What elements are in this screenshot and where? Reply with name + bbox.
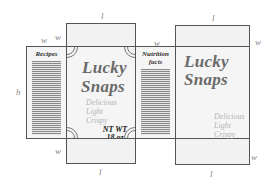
width-label-front-bottom-flap: w [55,147,61,156]
back-tagline-3: Crispy [214,130,235,140]
width-label-recipes-top: w [41,36,47,45]
front-top-flap [66,23,136,47]
front-brand-line2: Snaps [81,78,125,95]
back-bottom-flap [175,138,250,165]
length-label-front-bottom: l [99,168,102,177]
recipes-label: Recipes [27,50,66,58]
nutrition-facts-lines [141,69,170,135]
net-weight-line2: 18 oz [100,133,130,139]
back-brand-line1: Lucky [184,53,229,70]
width-label-front-top-flap: w [55,33,61,42]
front-bottom-flap [66,138,136,164]
height-label: h [16,88,21,97]
length-label-back-top: l [212,14,215,23]
recipes-text-lines [32,61,61,135]
nutrition-label-line1: Nutrition [136,50,175,58]
nutrition-label-line2: facts [136,58,175,66]
back-brand-line2: Snaps [184,71,228,88]
back-top-flap [175,25,250,47]
width-label-back-bottom-flap: w [251,153,257,162]
recipes-side-panel: Recipes [26,46,67,139]
back-panel: Lucky Snaps Delicious Light Crispy [175,46,250,139]
length-label-front-top: l [101,12,104,21]
length-label-back-bottom: l [210,170,213,179]
front-brand-line1: Lucky [82,59,127,76]
width-label-back-top-flap: w [255,38,261,47]
front-panel: Lucky Snaps Delicious Light Crispy NT WT… [66,46,136,139]
nutrition-side-panel: Nutrition facts [135,46,176,139]
